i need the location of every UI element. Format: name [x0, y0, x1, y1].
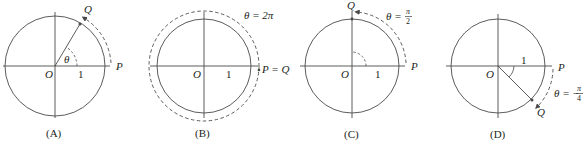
- origin-label: O: [341, 68, 349, 80]
- angle-arc: [352, 52, 366, 66]
- unit-label: 1: [226, 68, 232, 80]
- radius-to-q: [498, 66, 532, 100]
- q-label: Q: [84, 3, 92, 15]
- unit-circle-figure: Q θ O 1 P (A) θ = 2π O 1 P = Q (B) Q θ =…: [0, 0, 586, 147]
- unit-label: 1: [521, 54, 527, 66]
- angle-denominator: 2: [406, 17, 410, 26]
- angle-label: θ = 2π: [244, 9, 274, 21]
- panel-b: θ = 2π O 1 P = Q (B): [149, 9, 289, 140]
- p-label: P: [410, 60, 418, 72]
- point-q: [351, 18, 354, 21]
- p-label: P: [557, 61, 565, 73]
- panel-a: Q θ O 1 P (A): [3, 3, 123, 140]
- angle-numerator: π: [577, 84, 582, 93]
- panel-c: Q θ = π 2 O 1 P (C): [300, 0, 418, 141]
- q-label: Q: [537, 106, 545, 118]
- point-q: [531, 99, 534, 102]
- angle-label-prefix: θ = −: [554, 87, 580, 99]
- theta-label: θ: [64, 53, 70, 65]
- angle-label-prefix: θ =: [386, 10, 402, 22]
- unit-label: 1: [78, 68, 84, 80]
- point-pq: [258, 69, 261, 72]
- angle-denominator: 4: [577, 94, 581, 103]
- panel-caption: (C): [344, 128, 359, 141]
- panel-caption: (A): [46, 127, 62, 140]
- angle-numerator: π: [406, 7, 411, 16]
- panel-caption: (D): [490, 128, 506, 141]
- angle-arc: [509, 66, 514, 77]
- p-label: P: [115, 60, 123, 72]
- pq-label: P = Q: [261, 63, 289, 75]
- point-q: [79, 23, 82, 26]
- panel-caption: (B): [195, 127, 210, 140]
- panel-d: 1 O P θ = − π 4 Q (D): [446, 14, 583, 141]
- origin-label: O: [193, 68, 201, 80]
- origin-label: O: [45, 68, 53, 80]
- q-label: Q: [347, 0, 355, 11]
- origin-label: O: [486, 68, 494, 80]
- unit-label: 1: [375, 68, 381, 80]
